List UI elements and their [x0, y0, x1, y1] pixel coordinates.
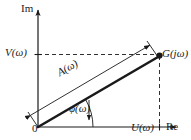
origin-label: 0	[32, 123, 38, 134]
figure-canvas: Im Re 0 V(ω) U(ω) G(jω) A(ω) φ(ω)	[0, 0, 191, 140]
phase-label: φ(ω)	[69, 103, 90, 114]
response-point-label: G(jω)	[162, 48, 188, 59]
imaginary-component-label: V(ω)	[5, 47, 27, 58]
vector-diagram	[0, 0, 191, 140]
real-axis-label: Re	[166, 121, 178, 132]
imaginary-axis-label: Im	[21, 3, 33, 14]
real-component-label: U(ω)	[131, 122, 154, 133]
magnitude-dimension-line	[31, 45, 150, 115]
